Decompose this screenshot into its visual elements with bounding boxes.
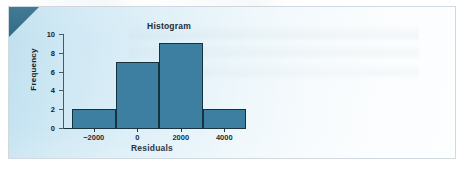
y-axis-tick-label: 4 [33,86,55,95]
y-axis-tick [59,53,64,54]
x-axis-tick-label: 4000 [204,133,244,142]
histogram-bar [203,109,247,129]
y-axis-line [63,34,64,129]
y-axis-tick [59,72,64,73]
x-axis-tick-label: 0 [117,133,157,142]
y-axis-tick [59,90,64,91]
y-axis-tick [59,34,64,35]
histogram-bar [159,43,203,129]
figure-panel: Histogram Frequency Residuals 0246810 −2… [9,7,455,158]
screenshot-root: Histogram Frequency Residuals 0246810 −2… [0,0,464,172]
chart-title: Histogram [109,21,229,31]
y-axis-tick [59,128,64,129]
x-axis-tick-label: 2000 [161,133,201,142]
histogram-bar [72,109,116,129]
x-axis-title: Residuals [57,143,247,153]
y-axis-tick-label: 10 [33,30,55,39]
x-axis-tick [224,128,225,132]
x-axis-tick [94,128,95,132]
histogram-plot: Histogram Frequency Residuals 0246810 −2… [9,7,455,158]
y-axis-tick-label: 0 [33,124,55,133]
y-axis-tick-label: 8 [33,49,55,58]
y-axis-tick [59,109,64,110]
histogram-bar [116,62,160,129]
y-axis-tick-label: 6 [33,68,55,77]
x-axis-tick [181,128,182,132]
x-axis-tick [137,128,138,132]
y-axis-tick-label: 2 [33,105,55,114]
x-axis-tick-label: −2000 [74,133,114,142]
